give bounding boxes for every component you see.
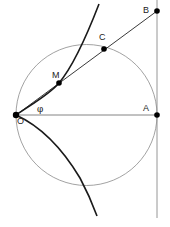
label-M: M — [52, 70, 60, 80]
segment-OB — [16, 11, 157, 115]
label-O: O — [17, 116, 24, 126]
label-B: B — [143, 5, 149, 15]
point-M — [56, 80, 62, 86]
cissoid-lower-branch — [16, 115, 97, 216]
point-C — [101, 46, 107, 52]
angle-phi-label: φ — [37, 104, 43, 114]
cissoid-diagram: B C M A O φ — [0, 0, 170, 227]
label-C: C — [99, 32, 106, 42]
diagram-canvas: B C M A O φ — [0, 0, 170, 227]
label-A: A — [143, 103, 149, 113]
cissoid-upper-branch — [16, 4, 99, 115]
point-B — [154, 8, 160, 14]
point-A — [154, 112, 160, 118]
